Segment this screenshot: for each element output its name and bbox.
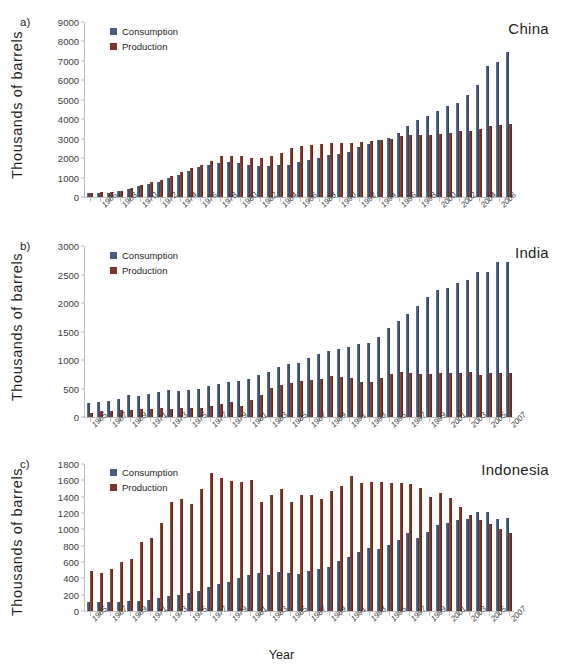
bar-production (100, 192, 103, 197)
bar-group (494, 246, 504, 417)
bar-group (375, 246, 385, 417)
bar-production (409, 135, 412, 197)
bar-production (250, 480, 253, 611)
y-tick-mark (81, 496, 84, 497)
legend-label-consumption: Consumption (122, 26, 178, 37)
bar-group (215, 464, 225, 611)
bar-group (285, 22, 295, 197)
bar-production (320, 144, 323, 197)
bar-production (110, 411, 113, 417)
bar-group (355, 464, 365, 611)
y-tick-mark (81, 562, 84, 563)
y-tick-mark (81, 360, 84, 361)
bar-group (405, 464, 415, 611)
legend-india: Consumption Production (110, 250, 178, 280)
bar-production (240, 482, 243, 611)
legend-item-consumption: Consumption (110, 467, 178, 478)
bar-group (414, 246, 424, 417)
bar-group (325, 22, 335, 197)
bar-production (320, 499, 323, 611)
bar-production (230, 402, 233, 417)
bar-group (185, 246, 195, 417)
bar-production (300, 495, 303, 611)
bar-group (434, 464, 444, 611)
bar-group (185, 22, 195, 197)
bar-group (474, 22, 484, 197)
legend-item-production: Production (110, 265, 178, 276)
legend-item-consumption: Consumption (110, 250, 178, 261)
bar-group (444, 464, 454, 611)
bar-group (85, 22, 95, 197)
bar-production (429, 374, 432, 417)
bar-production (280, 489, 283, 612)
bar-group (195, 22, 205, 197)
bar-production (170, 409, 173, 417)
bar-production (390, 374, 393, 417)
bar-group (494, 22, 504, 197)
bar-group (375, 464, 385, 611)
bar-group (365, 22, 375, 197)
bar-production (200, 489, 203, 612)
bar-production (459, 507, 462, 611)
bar-production (110, 569, 113, 611)
legend-label-consumption: Consumption (122, 250, 178, 261)
bar-production (400, 483, 403, 611)
bar-group (444, 246, 454, 417)
bar-production (509, 373, 512, 417)
bar-production (380, 140, 383, 197)
bar-production (310, 495, 313, 611)
bar-group (504, 246, 514, 417)
bar-production (469, 515, 472, 611)
legend-swatch-consumption-icon (110, 252, 117, 259)
y-axis-title-india: Thousands of barrels (4, 234, 30, 420)
bar-group (405, 22, 415, 197)
bar-production (429, 135, 432, 197)
bar-group (215, 22, 225, 197)
bar-group (245, 464, 255, 611)
bar-group (345, 22, 355, 197)
bar-group (464, 246, 474, 417)
y-tick-mark (81, 99, 84, 100)
bar-group (225, 464, 235, 611)
legend-swatch-production-icon (110, 43, 117, 50)
bar-production (260, 158, 263, 197)
bar-group (305, 22, 315, 197)
legend-label-consumption: Consumption (122, 467, 178, 478)
bar-group (444, 22, 454, 197)
bar-production (220, 156, 223, 197)
bar-production (150, 409, 153, 417)
bar-group (325, 464, 335, 611)
bar-production (409, 484, 412, 611)
bar-group (315, 22, 325, 197)
y-tick-mark (81, 388, 84, 389)
x-tick-labels-china: 1966196819701972197419761978198019821984… (84, 198, 514, 228)
bar-group (285, 464, 295, 611)
bar-group (225, 246, 235, 417)
legend-swatch-consumption-icon (110, 28, 117, 35)
y-tick-mark (81, 158, 84, 159)
y-axis-title-indonesia: Thousands of barrels (4, 452, 30, 632)
bar-group (484, 464, 494, 611)
bar-group (395, 246, 405, 417)
bar-group (285, 246, 295, 417)
bar-group (464, 464, 474, 611)
bar-group (365, 246, 375, 417)
bar-production (439, 134, 442, 197)
bar-production (190, 408, 193, 417)
bar-production (360, 483, 363, 611)
y-tick-mark (81, 246, 84, 247)
bar-production (459, 131, 462, 197)
bar-group (484, 246, 494, 417)
bar-group (474, 246, 484, 417)
bar-production (400, 136, 403, 197)
bar-group (95, 246, 105, 417)
bar-production (350, 378, 353, 417)
y-tick-mark (81, 513, 84, 514)
y-tick-mark (81, 480, 84, 481)
bar-group (255, 246, 265, 417)
bar-production (409, 373, 412, 417)
bar-production (419, 488, 422, 611)
bar-group (424, 464, 434, 611)
y-tick-mark (81, 331, 84, 332)
chart-panel-indonesia: c) Thousands of barrels Indonesia 020040… (0, 448, 563, 669)
